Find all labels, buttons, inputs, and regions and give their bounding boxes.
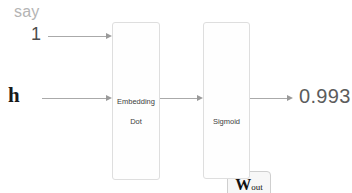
hidden-vector-label: h — [8, 85, 20, 106]
node-sigmoid[interactable]: Sigmoid — [203, 22, 250, 179]
edge-embedding-dot-to-sigmoid-line — [160, 98, 197, 99]
edge-h-to-embedding-dot-line — [42, 98, 106, 99]
node-sigmoid-label: Sigmoid — [204, 118, 249, 126]
weight-subscript: out — [251, 182, 263, 192]
weight-chip-text: Wout — [235, 177, 263, 193]
node-embedding-dot-line1: Embedding — [113, 98, 159, 106]
edge-one-to-embedding-dot-line — [48, 36, 106, 37]
one-hot-value-label: 1 — [31, 25, 41, 43]
edge-sigmoid-to-output-arrowhead — [287, 95, 293, 101]
context-word-label: say — [14, 4, 40, 20]
node-embedding-dot[interactable]: Embedding Dot Wout — [112, 22, 160, 180]
edge-sigmoid-to-output-line — [250, 98, 287, 99]
probability-value: 0.993 — [299, 86, 351, 106]
node-embedding-dot-line2: Dot — [113, 118, 159, 126]
diagram-canvas: say 1 h Embedding Dot Wout Sigmoid 0.993 — [0, 0, 352, 193]
